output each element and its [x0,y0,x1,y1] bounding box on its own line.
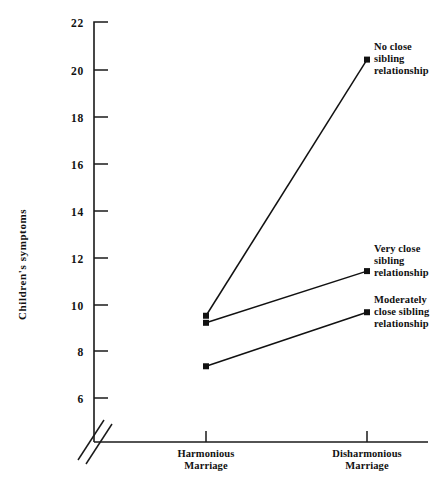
y-tick-label-18: 18 [71,112,84,124]
series-label-no-close-line2: sibling [374,53,405,64]
series-label-no-close-line1: No close [374,41,412,52]
series-label-no-close-line3: relationship [374,65,429,76]
series-label-moderately-close-line2: close sibling [374,306,430,317]
series-label-moderately-close-line3: relationship [374,318,429,329]
y-tick-label-22: 22 [71,17,84,29]
data-point-very-close-harmonious [203,320,209,326]
data-point-no-close-disharmonious [364,57,370,63]
chart-canvas: 22 20 18 16 14 12 10 8 6 Children's symp… [0,0,447,490]
x-category-label-disharmonious-line2: Marriage [345,460,389,471]
y-tick-label-16: 16 [71,159,84,171]
data-point-moderately-close-harmonious [203,363,209,369]
line-chart-figure: 22 20 18 16 14 12 10 8 6 Children's symp… [0,0,447,490]
x-category-label-harmonious-line2: Marriage [184,460,228,471]
series-label-moderately-close-line1: Moderately [374,294,428,305]
x-category-label-disharmonious-line1: Disharmonious [332,448,402,459]
y-tick-label-20: 20 [71,65,84,77]
y-tick-label-14: 14 [71,206,84,218]
series-label-very-close-line2: sibling [374,255,405,266]
data-point-moderately-close-disharmonious [364,309,370,315]
y-tick-label-8: 8 [77,346,84,358]
series-label-very-close-line3: relationship [374,267,429,278]
data-point-no-close-harmonious [203,313,209,319]
y-tick-label-12: 12 [71,253,84,265]
y-tick-label-10: 10 [71,300,84,312]
y-tick-label-6: 6 [77,393,84,405]
x-category-label-harmonious-line1: Harmonious [177,448,234,459]
y-axis-title: Children's symptoms [16,209,28,320]
series-label-very-close-line1: Very close [374,243,421,254]
data-point-very-close-disharmonious [364,268,370,274]
